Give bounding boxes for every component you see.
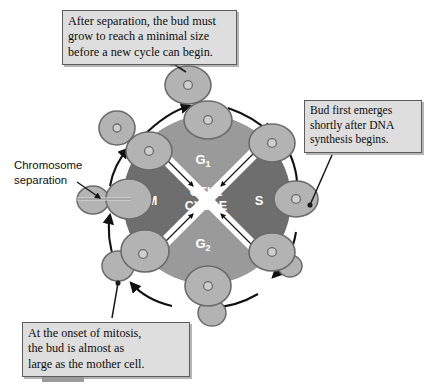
callout-line: before a new cycle can begin. [68, 45, 231, 60]
nucleus [268, 139, 277, 148]
leader-bottom-callout [112, 283, 118, 318]
arrow-bottom-to-lower-left [131, 283, 172, 306]
nucleus [145, 147, 154, 156]
callout-line: the bud is almost as [28, 341, 184, 356]
cell-top-detached [165, 66, 211, 104]
cell-left-chromosome-separation [77, 179, 152, 219]
callout-bud-first-emerges: Bud first emerges shortly after DNA synt… [304, 100, 422, 153]
label-line: separation [14, 173, 82, 188]
nucleus [204, 116, 213, 125]
phase-label-s: S [255, 193, 264, 208]
callout-line: After separation, the bud must [68, 14, 231, 29]
cell-bottom [185, 266, 231, 326]
label-line: Chromosome [14, 158, 82, 173]
label-chromosome-separation: Chromosome separation [14, 158, 82, 188]
cell-lower-left [102, 230, 169, 281]
callout-line: Bud first emerges [310, 104, 416, 119]
nucleus [268, 248, 277, 257]
leader-right-callout [310, 155, 332, 205]
cell-right [274, 181, 318, 217]
callout-line: grow to reach a minimal size [68, 29, 231, 44]
center-label-line1: CELL [190, 185, 223, 199]
callout-line: synthesis begins. [310, 133, 416, 148]
nucleus [204, 282, 213, 291]
cell-upper-left [126, 132, 172, 170]
callout-line: large as the mother cell. [28, 357, 184, 372]
nucleus [292, 195, 301, 204]
nucleus [184, 81, 193, 90]
cell-top-ring [184, 101, 232, 139]
callout-after-separation: After separation, the bud must grow to r… [62, 10, 237, 65]
nucleus [113, 124, 121, 132]
cell-upper-right [249, 124, 295, 162]
callout-line: shortly after DNA [310, 119, 416, 134]
center-label-line2: CYCLE [185, 199, 227, 213]
nucleus [139, 250, 148, 259]
callout-onset-of-mitosis: At the onset of mitosis, the bud is almo… [22, 322, 190, 377]
figure-canvas: G1 S G2 M CELL CYCLE [0, 0, 427, 386]
callout-line: At the onset of mitosis, [28, 326, 184, 341]
caption-figure-number-bar [42, 377, 84, 382]
